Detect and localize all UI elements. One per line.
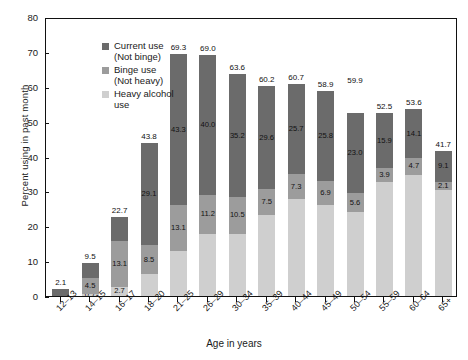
legend-item: Binge use (Not heavy) (102, 65, 174, 86)
bar-segment[interactable] (111, 217, 128, 241)
legend-swatch-heavy-use-icon (102, 91, 109, 98)
bar-stack[interactable]: 2.19.141.7 (435, 151, 452, 296)
plot-area: 2.10.74.59.52.713.122.78.529.143.813.143… (45, 18, 457, 297)
bar-total-label: 53.6 (394, 99, 434, 107)
chart-figure: Percent using in past month 2.10.74.59.5… (0, 0, 468, 360)
bar-stack[interactable]: 4.714.153.6 (405, 109, 422, 296)
legend-label: Binge use (Not heavy) (114, 65, 163, 86)
bar-total-label: 69.0 (188, 45, 228, 53)
bar-segment-value-label: 8.5 (129, 256, 169, 264)
bar-segment-value-label: 2.1 (423, 182, 463, 190)
bar-segment[interactable] (170, 251, 187, 296)
y-axis-tick-label: 70 (0, 47, 45, 59)
x-axis-title: Age in years (0, 338, 468, 349)
y-axis-tick-mark (45, 227, 49, 228)
bar-segment[interactable] (317, 205, 334, 296)
bar-segment[interactable] (435, 190, 452, 296)
bar-segment[interactable] (288, 199, 305, 296)
bar-stack[interactable]: 2.713.122.7 (111, 217, 128, 296)
y-axis-tick-mark (45, 123, 49, 124)
bar-stack[interactable]: 10.535.263.6 (229, 74, 246, 296)
bar-stack[interactable]: 6.925.858.9 (317, 91, 334, 296)
bar-total-label: 43.8 (129, 133, 169, 141)
bar-stack[interactable]: 7.529.660.2 (258, 86, 275, 296)
bar-segment-value-label: 13.1 (158, 224, 198, 232)
bar-segment-value-label: 29.1 (129, 190, 169, 198)
x-axis-tick-label: 65+ (436, 295, 454, 313)
bar-segment-value-label: 10.5 (217, 211, 257, 219)
y-axis-tick-mark (45, 192, 49, 193)
bar-total-label: 63.6 (217, 64, 257, 72)
bar-segment-value-label: 14.1 (394, 130, 434, 138)
y-axis-tick-mark (45, 297, 49, 298)
bar-segment-value-label: 40.0 (188, 121, 228, 129)
bar-segment-value-label: 23.0 (335, 149, 375, 157)
legend-swatch-binge-use-icon (102, 67, 109, 74)
bar-stack[interactable]: 11.240.069.0 (199, 55, 216, 296)
y-axis-tick-label: 30 (0, 186, 45, 198)
bar-segment[interactable] (405, 175, 422, 296)
bar-stack[interactable]: 7.325.760.7 (288, 84, 305, 296)
y-axis-tick-mark (45, 158, 49, 159)
bar-segment[interactable] (229, 234, 246, 296)
y-axis-tick-mark (45, 88, 49, 89)
bar-stack[interactable]: 3.915.952.5 (376, 113, 393, 296)
bar-segment-value-label: 3.9 (364, 171, 404, 179)
y-axis-tick-label: 0 (0, 291, 45, 303)
bar-segment[interactable] (376, 182, 393, 296)
y-axis-tick-label: 20 (0, 221, 45, 233)
bar-total-label: 41.7 (423, 141, 463, 149)
y-axis-tick-mark (45, 262, 49, 263)
y-axis-tick-label: 40 (0, 152, 45, 164)
bar-segment-value-label: 29.6 (247, 134, 287, 142)
bar-total-label: 59.9 (335, 77, 375, 85)
bar-total-label: 22.7 (100, 207, 140, 215)
bar-stack[interactable]: 8.529.143.8 (141, 143, 158, 296)
legend-item: Current use (Not binge) (102, 41, 174, 62)
legend-swatch-current-use-icon (102, 43, 109, 50)
legend-label: Current use (Not binge) (114, 41, 164, 62)
bar-segment-value-label: 7.5 (247, 198, 287, 206)
bar-segment-value-label: 9.1 (423, 162, 463, 170)
y-axis-tick-label: 60 (0, 82, 45, 94)
bar-segment[interactable] (258, 215, 275, 296)
bar-stack[interactable]: 5.623.059.9 (347, 87, 364, 296)
bar-segment[interactable] (347, 212, 364, 296)
bar-segment-value-label: 5.6 (335, 199, 375, 207)
bar-segment-value-label: 6.9 (306, 189, 346, 197)
y-axis-tick-mark (45, 53, 49, 54)
chart-legend: Current use (Not binge) Binge use (Not h… (102, 41, 174, 113)
y-axis-tick-mark (45, 18, 49, 19)
legend-item: Heavy alcohol use (102, 89, 174, 110)
y-axis-title: Percent using in past month (19, 46, 30, 246)
bar-segment[interactable] (199, 234, 216, 296)
y-axis-tick-label: 10 (0, 256, 45, 268)
y-axis-tick-label: 80 (0, 12, 45, 24)
bar-segment-value-label: 25.8 (306, 132, 346, 140)
bar-segment[interactable] (82, 263, 99, 278)
y-axis-tick-label: 50 (0, 117, 45, 129)
bar-segment-value-label: 15.9 (364, 137, 404, 145)
legend-label: Heavy alcohol use (114, 89, 174, 110)
